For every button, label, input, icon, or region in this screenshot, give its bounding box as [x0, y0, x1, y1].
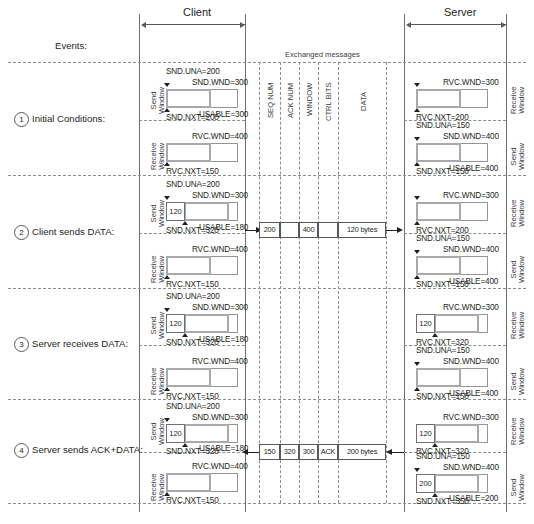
row2-server-send-una: SND.UNA=150	[416, 234, 470, 243]
row2-server-send-una-marker	[414, 250, 420, 254]
row-event-4: Server sends ACK+DATA:	[32, 445, 143, 454]
row3-client-recv-window	[166, 368, 211, 387]
row2-client-send-window	[184, 202, 229, 221]
server-span-arrow	[409, 24, 506, 25]
row2-msg-ctrl-bits	[318, 222, 338, 238]
row3-server-recv-data: 120	[416, 314, 435, 333]
row2-client-send-side-label: SendWindow	[150, 200, 167, 227]
row1-server-recv-side-label: ReceiveWindow	[510, 87, 527, 114]
client-span-arrow-left-head	[141, 22, 146, 28]
row2-server-send-window	[416, 256, 461, 275]
row3-client-recv-wnd: RVC.WND=400	[192, 357, 248, 366]
row2-msg-ack-num	[280, 222, 299, 238]
row2-client-send-usable: USABLE=180	[199, 223, 248, 232]
row3-client-send-data: 120	[166, 314, 185, 333]
row1-client-send-wnd: SND.WND=300	[192, 78, 248, 87]
row2-server-send-wnd: SND.WND=400	[443, 245, 499, 254]
row3-client-send-window	[184, 314, 229, 333]
msgcol-guide-0	[259, 62, 260, 503]
row-event-2: Client sends DATA:	[32, 227, 114, 236]
row-event-1: Initial Conditions:	[32, 114, 105, 123]
row4-client-send-una-marker	[164, 418, 170, 422]
msgcol-label-ctrl-bits: CTRL BITS	[325, 82, 333, 121]
row2-server-send-side-label: SendWindow	[510, 256, 527, 283]
row-event-3: Server receives DATA:	[32, 339, 128, 348]
row3-server-recv-wnd: RVC.WND=300	[443, 303, 499, 312]
row4-client-send-window	[184, 424, 229, 443]
row3-client-send-una-marker	[164, 308, 170, 312]
row3-server-send-window	[416, 368, 461, 387]
row1-server-recv-window	[416, 89, 461, 108]
row4-client-send-usable: USABLE=180	[199, 444, 248, 453]
row1-client-send-window	[166, 89, 211, 108]
row4-client-send-una: SND.UNA=200	[166, 402, 220, 411]
row-number-4: 4	[14, 443, 29, 458]
figure-canvas: Events: Client Server Exchanged messages…	[0, 0, 534, 524]
row1-server-send-side-label: SendWindow	[510, 143, 527, 170]
row2-server-recv-nxt-marker	[414, 221, 420, 225]
msgcol-label-ack-num: ACK NUM	[287, 83, 295, 118]
row4-msg-data: 200 bytes	[338, 444, 386, 460]
row1-server-send-una: SND.UNA=150	[416, 121, 470, 130]
row3-client-send-side-label: SendWindow	[150, 312, 167, 339]
pane-divider-server-left	[404, 14, 405, 512]
row1-client-send-una-marker	[164, 83, 170, 87]
row4-msg-ack-num: 320	[280, 444, 299, 460]
row3-server-recv-nxt-marker	[432, 333, 438, 337]
row-number-3: 3	[14, 337, 29, 352]
client-span-arrow	[144, 24, 245, 25]
row2-flow-out-head	[397, 227, 403, 233]
row4-server-send-data: 200	[416, 474, 435, 493]
row3-server-send-una: SND.UNA=150	[416, 346, 470, 355]
client-header: Client	[183, 8, 211, 17]
row4-client-send-data: 120	[166, 424, 185, 443]
row2-client-recv-nxt-marker	[164, 275, 170, 279]
row2-client-send-data: 120	[166, 202, 185, 221]
row-number-1: 1	[14, 112, 29, 127]
row2-msg-window: 400	[299, 222, 318, 238]
row4-server-recv-side-label: ReceiveWindow	[510, 418, 527, 445]
row-number-2: 2	[14, 225, 29, 240]
row3-server-send-wnd: SND.WND=400	[443, 357, 499, 366]
row4-msg-window: 300	[299, 444, 318, 460]
row3-server-send-una-marker	[414, 362, 420, 366]
row4-server-recv-window	[434, 424, 479, 443]
row4-server-send-una-marker	[414, 468, 420, 472]
row4-client-send-side-label: SendWindow	[150, 418, 167, 445]
row3-server-send-usable: USABLE=400	[449, 389, 498, 398]
row4-flow-in	[392, 452, 404, 453]
row3-client-send-nxt-marker	[182, 333, 188, 337]
row1-client-send-nxt-marker	[164, 108, 170, 112]
msgcol-label-seq-num: SEQ NUM	[267, 83, 275, 118]
pane-divider-client-left	[139, 14, 140, 512]
row2-server-recv-window	[416, 202, 461, 221]
row1-client-recv-window	[166, 143, 211, 162]
row1-server-send-window	[416, 143, 461, 162]
row1-client-send-una: SND.UNA=200	[166, 67, 220, 76]
msgcol-guide-4	[338, 62, 339, 503]
msgcol-guide-1	[280, 62, 281, 503]
row4-server-recv-data: 120	[416, 424, 435, 443]
row2-server-recv-side-label: ReceiveWindow	[510, 200, 527, 227]
row4-server-send-side-label: SendWindow	[510, 474, 527, 501]
msgcol-guide-5	[386, 62, 387, 503]
server-span-arrow-left-head	[406, 22, 411, 28]
row1-server-recv-top-marker	[414, 83, 420, 87]
row1-client-send-usable: USABLE=300	[199, 110, 248, 119]
row4-client-recv-nxt: RVC.NXT=150	[166, 496, 219, 505]
row4-server-recv-wnd: RVC.WND=300	[443, 413, 499, 422]
row3-client-recv-nxt-marker	[164, 387, 170, 391]
row4-client-recv-side-label: ReceiveWindow	[150, 474, 167, 501]
row1-server-send-wnd: SND.WND=400	[443, 132, 499, 141]
row3-server-send-side-label: SendWindow	[510, 368, 527, 395]
pane-divider-server-right	[506, 14, 507, 512]
row1-client-recv-nxt: RVC.NXT=150	[166, 167, 219, 176]
row4-flow-in-head	[386, 449, 392, 455]
row2-msg-seq-num: 200	[259, 222, 280, 238]
row4-server-send-una: SND.UNA=150	[416, 452, 470, 461]
pane-divider-client-right	[245, 14, 246, 512]
row3-server-send-nxt-marker	[414, 387, 420, 391]
row3-client-send-wnd: SND.WND=300	[192, 303, 248, 312]
row3-client-recv-nxt: RVC.NXT=150	[166, 392, 219, 401]
row2-server-recv-top-marker	[414, 196, 420, 200]
